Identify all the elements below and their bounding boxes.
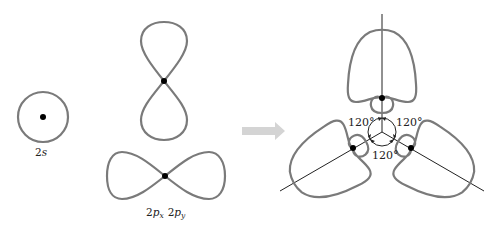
transform-arrow	[242, 122, 285, 140]
nucleus-dot-bottom-right	[408, 145, 414, 151]
angle-label-upper-left: 120°	[348, 116, 375, 129]
orbital-2p-horizontal	[107, 152, 225, 199]
nucleus-dot-top	[379, 95, 385, 101]
nucleus-dot	[40, 114, 46, 120]
angle-label-bottom: 120°	[372, 149, 399, 162]
sp2-hybrid-orbitals: 120° 120° 120°	[277, 14, 487, 213]
orbital-2s: 2s	[18, 92, 68, 158]
nucleus-dot	[162, 173, 168, 179]
label-2px-2py: 2px2py	[146, 206, 186, 220]
nucleus-dot-bottom-left	[350, 145, 356, 151]
angle-label-upper-right: 120°	[396, 116, 423, 129]
nucleus-dot	[161, 78, 167, 84]
label-2s: 2s	[35, 146, 48, 158]
orbital-2p-vertical	[141, 22, 187, 140]
arrow-right-icon	[242, 122, 285, 140]
diagram-canvas: 2s 2px2py	[0, 0, 500, 229]
